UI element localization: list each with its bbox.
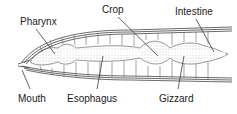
label-crop: Crop [102, 5, 124, 15]
label-gizzard: Gizzard [159, 94, 193, 104]
label-intestine: Intestine [175, 7, 213, 17]
label-pharynx: Pharynx [20, 17, 57, 27]
label-esophagus: Esophagus [67, 94, 117, 104]
label-mouth: Mouth [18, 94, 46, 104]
